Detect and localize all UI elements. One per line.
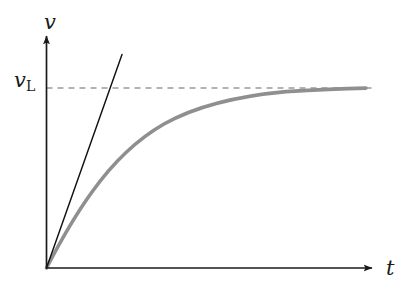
velocity-time-figure: v t vL	[0, 0, 411, 298]
x-axis-title: t	[386, 258, 394, 279]
limiting-velocity-label: vL	[14, 70, 35, 93]
initial-tangent-line	[47, 55, 123, 269]
y-axis-title: v	[44, 12, 56, 33]
velocity-curve	[47, 88, 367, 268]
limiting-velocity-subscript: L	[26, 78, 36, 94]
plot-canvas	[0, 0, 411, 298]
limiting-velocity-variable: v	[14, 68, 26, 92]
